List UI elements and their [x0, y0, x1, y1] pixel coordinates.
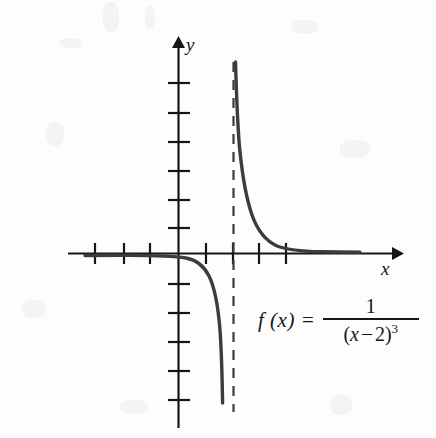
formula-left-hand-side: f (x) [258, 308, 295, 333]
formula-fraction: 1 (x–2)3 [323, 296, 419, 344]
formula-numerator: 1 [360, 296, 382, 318]
x-axis-label: x [381, 258, 389, 280]
formula-denominator-close-paren: ) [385, 322, 392, 344]
x-axis-arrowhead [392, 247, 404, 260]
formula-denominator-exponent: 3 [392, 321, 399, 336]
curve-left-branch [85, 255, 223, 403]
formula-denominator-variable: x [350, 322, 359, 344]
curve-right-branch [236, 62, 361, 252]
formula-denominator-minus: – [362, 322, 372, 344]
formula-denominator-constant: 2 [375, 322, 385, 344]
y-axis-arrowhead [172, 36, 185, 48]
y-axis [172, 36, 185, 428]
formula-denominator: (x–2)3 [339, 320, 402, 345]
function-formula: f (x) = 1 (x–2)3 [258, 296, 419, 344]
function-graph-figure [0, 0, 436, 438]
y-axis-label: y [186, 34, 194, 56]
formula-equals-sign: = [302, 308, 314, 333]
